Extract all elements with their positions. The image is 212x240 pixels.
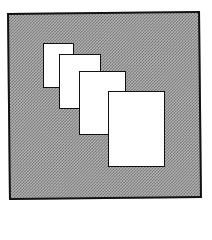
page-sheet-4 [108, 91, 165, 167]
